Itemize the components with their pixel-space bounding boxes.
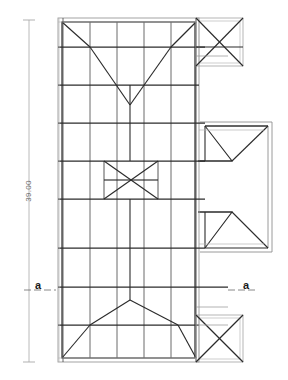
hip-top-left-corner bbox=[62, 22, 90, 47]
bowtie-right-lower bbox=[131, 180, 158, 199]
main-outline-outer bbox=[58, 18, 199, 362]
structural-grid bbox=[58, 18, 228, 362]
eave-field-lines bbox=[58, 18, 196, 362]
hip-bottom-right-corner bbox=[178, 325, 196, 358]
wing-hip-lower bbox=[198, 212, 232, 248]
top-hip-group bbox=[62, 22, 196, 105]
section-marker-left-label: a bbox=[35, 279, 42, 291]
x-brace-top-right bbox=[196, 18, 243, 66]
main-roof-outline-group bbox=[58, 18, 199, 362]
wing-hip-upper-right bbox=[232, 126, 268, 161]
right-wing-extension bbox=[198, 122, 272, 252]
bowtie-right-upper bbox=[131, 161, 158, 180]
main-outline-inner bbox=[62, 22, 195, 358]
bowtie-left-upper bbox=[104, 161, 131, 180]
hip-top-right-corner bbox=[171, 22, 196, 47]
hip-bottom-left-corner bbox=[62, 325, 90, 358]
architectural-roof-plan: 39.00 a a bbox=[0, 0, 288, 380]
center-bowtie bbox=[104, 161, 158, 199]
dimension-label: 39.00 bbox=[24, 180, 33, 202]
hip-top-right-valley bbox=[130, 47, 171, 105]
hip-top-left-valley bbox=[90, 47, 130, 105]
bottom-hip-group bbox=[62, 300, 196, 358]
dimension-group: 39.00 bbox=[23, 20, 35, 362]
wing-hip-lower-right bbox=[232, 212, 268, 248]
plan-canvas: 39.00 a a bbox=[0, 0, 288, 380]
hip-bottom-left-valley bbox=[90, 300, 130, 325]
section-marker-right-label: a bbox=[243, 279, 250, 291]
x-brace-bottom-right bbox=[196, 307, 243, 362]
bowtie-left-lower bbox=[104, 180, 131, 199]
wing-hip-upper bbox=[198, 126, 232, 161]
